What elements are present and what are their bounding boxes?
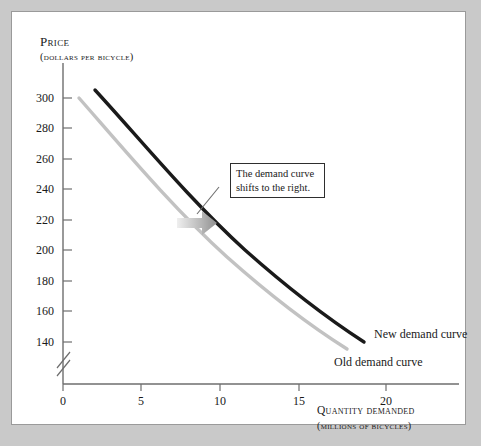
y-axis-subtitle: (dollars per bicycle) — [40, 51, 134, 62]
y-tick-label: 260 — [18, 152, 54, 167]
series-new-demand-curve — [95, 90, 364, 342]
x-axis-subtitle: (millions of bicycles) — [317, 420, 412, 431]
y-tick-label: 200 — [18, 243, 54, 258]
y-axis-ticks — [63, 98, 72, 342]
annotation-callout-box: The demand curve shifts to the right. — [230, 163, 325, 198]
y-tick-label: 220 — [18, 213, 54, 228]
y-tick-label: 180 — [18, 274, 54, 289]
x-tick-label: 20 — [371, 394, 401, 409]
y-tick-label: 300 — [18, 91, 54, 106]
chart-panel: Price (dollars per bicycle) Quantity dem… — [11, 11, 466, 425]
y-tick-label: 140 — [18, 335, 54, 350]
x-axis-ticks — [63, 384, 386, 391]
y-tick-label: 240 — [18, 182, 54, 197]
y-tick-label: 160 — [18, 304, 54, 319]
x-tick-label: 0 — [48, 394, 78, 409]
y-axis-title: Price — [40, 34, 69, 50]
y-tick-label: 280 — [18, 121, 54, 136]
annotation-leader-line — [197, 187, 219, 214]
new-demand-curve-label: New demand curve — [374, 327, 467, 342]
x-tick-label: 15 — [284, 394, 314, 409]
old-demand-curve-label: Old demand curve — [334, 355, 423, 370]
x-tick-label: 5 — [126, 394, 156, 409]
annotation-text: The demand curve shifts to the right. — [236, 167, 324, 195]
figure-frame: Price (dollars per bicycle) Quantity dem… — [0, 0, 481, 446]
x-tick-label: 10 — [205, 394, 235, 409]
